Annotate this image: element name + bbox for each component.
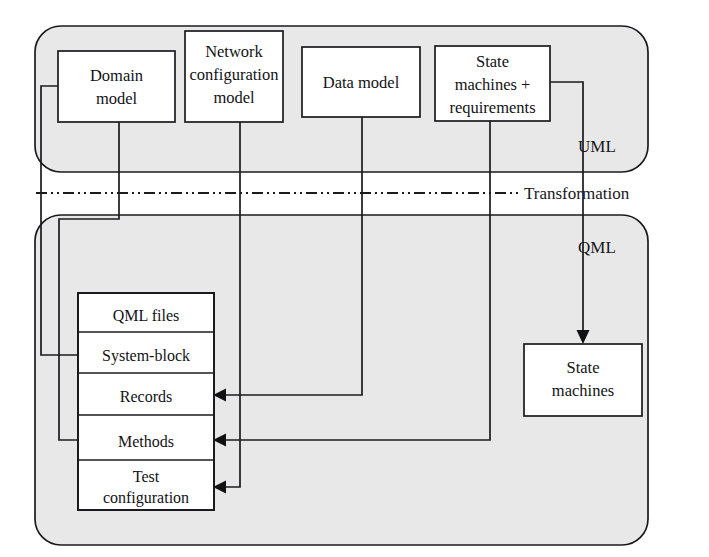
uml-node-state-machines-requirements[interactable]: State machines + requirements [435, 46, 550, 121]
stack-row-label-line-1: Test [133, 468, 160, 485]
stack-row-label: QML files [113, 307, 180, 324]
node-label-line-1: Domain [90, 66, 143, 85]
node-rect [524, 344, 642, 416]
qml-artifacts-stack: QML files System-block Records Methods T… [78, 293, 214, 510]
node-label-line-2: machines + [455, 75, 531, 94]
stack-row-qml-files[interactable]: QML files [113, 307, 180, 324]
node-label-line-3: requirements [449, 98, 535, 117]
transformation-label: Transformation [524, 184, 630, 203]
node-label-line-1: State [567, 358, 600, 377]
stack-row-label: System-block [102, 347, 190, 365]
uml-node-data-model[interactable]: Data model [302, 47, 420, 117]
qml-node-state-machines[interactable]: State machines [524, 344, 642, 416]
node-rect [58, 51, 175, 122]
uml-node-network-configuration-model[interactable]: Network configuration model [185, 31, 283, 122]
node-label-line-2: machines [552, 381, 614, 400]
node-label-line-1: Data model [323, 73, 400, 92]
stack-row-records[interactable]: Records [120, 388, 172, 405]
uml-qml-transformation-diagram: UML Transformation QML [0, 0, 709, 557]
stack-row-label: Methods [118, 433, 174, 450]
node-label-line-2: model [96, 89, 138, 108]
node-label-line-1: Network [205, 42, 263, 61]
uml-node-domain-model[interactable]: Domain model [58, 51, 175, 122]
stack-row-label: Records [120, 388, 172, 405]
node-label-line-2: configuration [190, 65, 279, 84]
stack-row-methods[interactable]: Methods [118, 433, 174, 450]
node-label-line-3: model [213, 88, 255, 107]
stack-row-label-line-2: configuration [103, 489, 189, 507]
diagram-canvas: UML Transformation QML [0, 0, 709, 557]
transformation-separator: Transformation [36, 180, 666, 206]
stack-row-system-block[interactable]: System-block [102, 347, 190, 365]
node-label-line-1: State [476, 52, 509, 71]
